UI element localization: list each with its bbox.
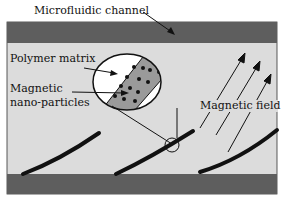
field-label: Magnetic field: [200, 99, 280, 112]
magnetic-label-2: nano-particles: [10, 96, 90, 109]
polymer-label: Polymer matrix: [10, 52, 96, 65]
top-wall: [7, 22, 277, 43]
bottom-wall: [7, 174, 277, 194]
channel-label: Microfluidic channel: [34, 4, 149, 17]
diagram: Microfluidic channel Polymer matrix Magn…: [0, 0, 284, 202]
magnetic-label-1: Magnetic: [10, 82, 63, 95]
